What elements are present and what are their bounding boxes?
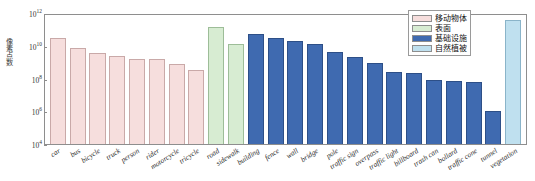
- y-tick-label: 1012: [29, 10, 42, 19]
- bar-car[interactable]: [50, 38, 66, 144]
- bar-bridge[interactable]: [307, 44, 323, 144]
- y-tick-label: 104: [32, 141, 42, 150]
- bar-sidewalk[interactable]: [228, 44, 244, 144]
- bar-cell: [48, 15, 68, 144]
- bar-overpass[interactable]: [367, 63, 383, 144]
- bar-cell: [127, 15, 147, 144]
- legend-item-surface[interactable]: 表面: [412, 23, 467, 33]
- bar-cell: [226, 15, 246, 144]
- bar-billboard[interactable]: [406, 73, 422, 144]
- bar-cell: [187, 15, 207, 144]
- legend-swatch-icon: [412, 35, 432, 42]
- chart-figure: 像素点数 10121010108106104 carbusbicycletruc…: [0, 0, 535, 181]
- legend-swatch-icon: [412, 15, 432, 22]
- y-tick-mark: [44, 145, 47, 146]
- bar-cell: [345, 15, 365, 144]
- x-tick-label-cell: car: [47, 146, 67, 180]
- legend-swatch-icon: [412, 45, 432, 52]
- y-axis-tick-labels: 10121010108106104: [10, 14, 42, 145]
- legend: 移动物体表面基础设施自然植被: [408, 10, 471, 56]
- bar-cell: [147, 15, 167, 144]
- x-tick-label: truck: [104, 146, 122, 162]
- bar-motorcycle[interactable]: [169, 64, 185, 144]
- x-tick-label-cell: bicycle: [87, 146, 107, 180]
- y-tick-label: 106: [32, 108, 42, 117]
- bar-truck[interactable]: [109, 56, 125, 144]
- legend-label: 移动物体: [435, 14, 467, 23]
- legend-item-moving[interactable]: 移动物体: [412, 13, 467, 23]
- legend-label: 自然植被: [435, 44, 467, 53]
- bar-road[interactable]: [208, 27, 224, 145]
- bar-person[interactable]: [129, 59, 145, 144]
- x-tick-label: fence: [262, 146, 280, 162]
- bar-cell: [365, 15, 385, 144]
- bar-tunnel[interactable]: [485, 111, 501, 144]
- bar-building[interactable]: [248, 34, 264, 144]
- bar-tricycle[interactable]: [188, 70, 204, 144]
- legend-swatch-icon: [412, 25, 432, 32]
- bar-cell: [246, 15, 266, 144]
- bar-cell: [286, 15, 306, 144]
- bar-cell: [167, 15, 187, 144]
- bar-traffic-light[interactable]: [386, 72, 402, 144]
- bar-cell: [325, 15, 345, 144]
- bar-cell: [266, 15, 286, 144]
- bar-pole[interactable]: [327, 52, 343, 144]
- y-tick-label: 108: [32, 75, 42, 84]
- bar-wall[interactable]: [287, 41, 303, 144]
- bar-cell: [88, 15, 108, 144]
- x-tick-label: wall: [285, 146, 301, 160]
- bar-traffic-cone[interactable]: [466, 82, 482, 144]
- bar-cell: [305, 15, 325, 144]
- x-tick-label-cell: building: [246, 146, 266, 180]
- bar-cell: [503, 15, 523, 144]
- legend-item-vegetation[interactable]: 自然植被: [412, 43, 467, 53]
- bar-bus[interactable]: [70, 48, 86, 144]
- y-tick-mark: [44, 14, 47, 15]
- bar-traffic-sign[interactable]: [347, 57, 363, 144]
- bar-vegetation[interactable]: [505, 20, 521, 144]
- x-tick-label-cell: traffic cone: [464, 146, 484, 180]
- legend-item-infra[interactable]: 基础设施: [412, 33, 467, 43]
- bar-trash-can[interactable]: [426, 80, 442, 144]
- x-tick-label-cell: bridge: [305, 146, 325, 180]
- bar-bicycle[interactable]: [89, 53, 105, 144]
- y-tick-label: 1010: [29, 42, 42, 51]
- legend-label: 表面: [435, 24, 451, 33]
- y-tick-mark: [44, 80, 47, 81]
- y-tick-mark: [44, 112, 47, 113]
- bar-bollard[interactable]: [446, 81, 462, 144]
- bar-cell: [206, 15, 226, 144]
- bar-rider[interactable]: [149, 59, 165, 144]
- x-tick-label-cell: tricycle: [186, 146, 206, 180]
- x-tick-label: car: [49, 146, 62, 159]
- x-axis-tick-labels: carbusbicycletruckpersonridermotorcyclet…: [44, 146, 527, 181]
- bar-cell: [385, 15, 405, 144]
- bar-cell: [68, 15, 88, 144]
- x-tick-label-cell: vegetation: [504, 146, 524, 180]
- bar-fence[interactable]: [268, 38, 284, 144]
- legend-label: 基础设施: [435, 34, 467, 43]
- x-tick-label-cell: fence: [266, 146, 286, 180]
- bar-cell: [107, 15, 127, 144]
- y-tick-mark: [44, 47, 47, 48]
- x-tick-label-cell: person: [127, 146, 147, 180]
- bar-cell: [484, 15, 504, 144]
